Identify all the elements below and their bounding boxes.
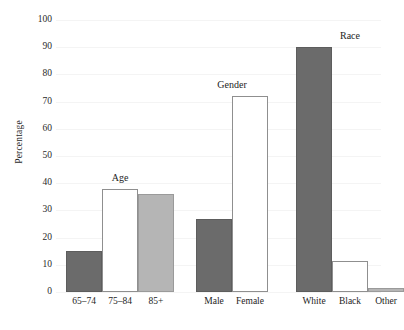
group-label-gender: Gender <box>217 79 246 90</box>
gridline <box>56 20 381 21</box>
y-tick-label: 10 <box>24 260 52 270</box>
category-label: Black <box>339 296 361 306</box>
y-tick-label: 30 <box>24 205 52 215</box>
y-tick-label: 70 <box>24 97 52 107</box>
y-tick-label: 60 <box>24 124 52 134</box>
gridline <box>56 74 381 75</box>
y-axis-tick-labels: 1009080706050403020100 <box>20 0 52 330</box>
y-tick-label: 90 <box>24 42 52 52</box>
bar[interactable] <box>138 194 174 292</box>
category-label: 75–84 <box>108 296 132 306</box>
gridline <box>56 292 381 293</box>
y-tick-label: 20 <box>24 233 52 243</box>
category-label: Male <box>204 296 224 306</box>
gridline <box>56 102 381 103</box>
y-tick-label: 80 <box>24 69 52 79</box>
category-label: White <box>302 296 325 306</box>
bar[interactable] <box>332 261 368 292</box>
gridline <box>56 156 381 157</box>
x-axis-category-labels: 65–7475–8485+MaleFemaleWhiteBlackOther <box>56 296 381 318</box>
gridline <box>56 129 381 130</box>
bar[interactable] <box>102 189 138 292</box>
bar[interactable] <box>196 219 232 292</box>
category-label: Other <box>375 296 397 306</box>
bar[interactable] <box>66 251 102 292</box>
category-label: 65–74 <box>72 296 96 306</box>
y-tick-label: 100 <box>24 15 52 25</box>
group-label-race: Race <box>340 30 360 41</box>
y-tick-label: 50 <box>24 151 52 161</box>
category-label: Female <box>236 296 264 306</box>
gridline <box>56 47 381 48</box>
bar[interactable] <box>232 96 268 292</box>
plot-area: AgeGenderRace <box>56 20 381 292</box>
bar[interactable] <box>368 288 404 292</box>
y-tick-label: 0 <box>24 287 52 297</box>
gridline <box>56 183 381 184</box>
group-label-age: Age <box>112 172 129 183</box>
category-label: 85+ <box>149 296 164 306</box>
bar[interactable] <box>296 47 332 292</box>
y-tick-label: 40 <box>24 178 52 188</box>
